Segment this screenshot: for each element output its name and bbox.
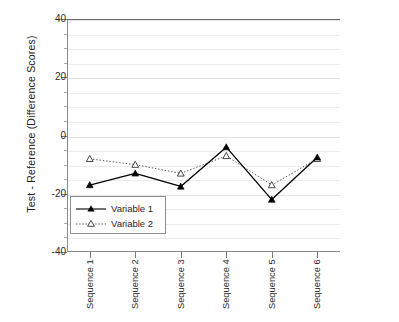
x-axis-tick	[135, 252, 136, 258]
x-axis-tick	[226, 252, 227, 258]
y-axis-tick-label: 40	[32, 13, 66, 24]
x-axis-tick	[181, 252, 182, 258]
x-axis-tick	[90, 252, 91, 258]
legend-entry-variable-1: Variable 1	[76, 201, 160, 216]
series-marker-1	[223, 144, 230, 150]
x-axis-tick-label: Sequence 4	[219, 259, 233, 321]
series-line-1	[90, 147, 318, 199]
x-axis-tick-label: Sequence 1	[83, 259, 97, 321]
legend-label-variable-2: Variable 2	[111, 218, 153, 230]
x-axis-tick	[272, 252, 273, 258]
legend-entry-variable-2: Variable 2	[76, 216, 160, 231]
legend-marker-open-triangle-icon	[76, 218, 106, 230]
x-axis-tick-label: Sequence 5	[265, 259, 279, 321]
series-marker-1	[132, 170, 139, 176]
legend-label-variable-1: Variable 1	[111, 203, 153, 215]
y-axis-title: Test - Reference (Difference Scores)	[25, 9, 39, 239]
series-marker-1	[314, 154, 321, 160]
y-axis-tick-label: -40	[32, 246, 66, 257]
y-axis-tick-label: -20	[32, 188, 66, 199]
chart-figure: Test - Reference (Difference Scores) 402…	[0, 0, 399, 322]
series-marker-2	[86, 155, 93, 161]
series-line-2	[90, 156, 318, 185]
y-axis-tick-label: 20	[32, 71, 66, 82]
legend-marker-filled-triangle-icon	[76, 203, 106, 215]
chart-legend: Variable 1 Variable 2	[70, 196, 166, 234]
x-axis-tick	[317, 252, 318, 258]
series-marker-2	[268, 182, 275, 188]
x-axis-tick-label: Sequence 3	[174, 259, 188, 321]
y-axis-tick-label: 0	[32, 130, 66, 141]
x-axis-tick-label: Sequence 2	[128, 259, 142, 321]
x-axis-tick-label: Sequence 6	[310, 259, 324, 321]
series-marker-2	[223, 152, 230, 158]
